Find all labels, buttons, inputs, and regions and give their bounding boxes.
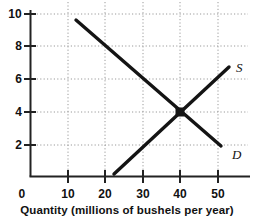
demand-curve-label: D (232, 147, 241, 163)
y-tick-label-4: 4 (2, 105, 22, 119)
x-tick-label-50: 50 (211, 187, 225, 201)
supply-curve-label: S (236, 60, 243, 76)
supply-demand-chart: 10 8 6 4 2 0 10 20 30 40 50 S D Quantity… (0, 0, 254, 218)
x-tick-label-10: 10 (61, 187, 75, 201)
x-tick-label-30: 30 (136, 187, 150, 201)
equilibrium-marker (176, 108, 185, 117)
y-tick-label-10: 10 (2, 7, 22, 21)
y-tick-label-6: 6 (2, 72, 22, 86)
x-tick-label-20: 20 (98, 187, 112, 201)
demand-curve (76, 20, 221, 146)
x-tick-label-40: 40 (173, 187, 187, 201)
x-tick-label-0: 0 (19, 187, 26, 201)
y-tick-label-2: 2 (2, 138, 22, 152)
plot-area (0, 0, 254, 218)
y-tick-label-8: 8 (2, 39, 22, 53)
axis-ticks (24, 14, 218, 183)
supply-curve (114, 67, 229, 174)
x-axis-title: Quantity (millions of bushels per year) (0, 204, 254, 216)
